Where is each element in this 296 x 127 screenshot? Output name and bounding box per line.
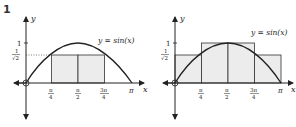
left-ytick-1: 1 — [17, 40, 21, 48]
right-xtick-pi: π — [277, 87, 283, 95]
right-xtick-pi4: π 4 — [198, 87, 204, 100]
left-ytick-inv-root2: 1 √2 — [12, 48, 20, 61]
svg-text:3π: 3π — [100, 87, 107, 93]
right-rect-1 — [175, 55, 202, 83]
svg-text:1: 1 — [164, 48, 168, 54]
svg-text:4: 4 — [252, 94, 256, 100]
svg-text:2: 2 — [225, 94, 229, 100]
right-xtick-pi2: π 2 — [224, 87, 230, 100]
left-xtick-3pi4: 3π 4 — [100, 87, 109, 100]
right-ytick-1: 1 — [166, 40, 170, 48]
right-rect-4 — [255, 55, 282, 83]
left-y-label: y — [30, 14, 36, 23]
left-curve-label: y = sin(x) — [97, 36, 135, 45]
svg-text:1: 1 — [15, 48, 19, 54]
right-x-label: x — [291, 85, 296, 94]
right-ytick-inv-root2: 1 √2 — [161, 48, 169, 61]
svg-text:π: π — [225, 87, 229, 93]
svg-text:4: 4 — [102, 94, 106, 100]
left-xtick-pi4: π 4 — [48, 87, 54, 100]
svg-text:4: 4 — [199, 94, 203, 100]
svg-text:π: π — [76, 87, 80, 93]
left-x-label: x — [143, 85, 148, 94]
svg-text:√2: √2 — [161, 55, 168, 61]
right-rect-3 — [228, 43, 255, 83]
left-rect-2 — [78, 55, 105, 83]
right-y-label: y — [179, 14, 185, 23]
riemann-sum-diagrams: y x y = sin(x) 1 1 √2 π 4 π 2 3π 4 π — [0, 0, 296, 127]
right-xtick-3pi4: 3π 4 — [250, 87, 259, 100]
left-xtick-pi2: π 2 — [75, 87, 81, 100]
svg-text:2: 2 — [76, 94, 80, 100]
left-panel: y x y = sin(x) 1 1 √2 π 4 π 2 3π 4 π — [12, 14, 148, 119]
right-rect-2 — [202, 43, 229, 83]
svg-text:3π: 3π — [250, 87, 257, 93]
svg-text:√2: √2 — [12, 55, 19, 61]
svg-text:π: π — [49, 87, 53, 93]
svg-text:π: π — [199, 87, 203, 93]
svg-text:4: 4 — [49, 94, 53, 100]
right-panel: y x y = sin(x) 1 1 √2 π 4 π 2 3π 4 π — [161, 14, 296, 119]
left-xtick-pi: π — [128, 87, 134, 95]
left-rect-1 — [52, 55, 79, 83]
right-curve-label: y = sin(x) — [250, 28, 288, 37]
